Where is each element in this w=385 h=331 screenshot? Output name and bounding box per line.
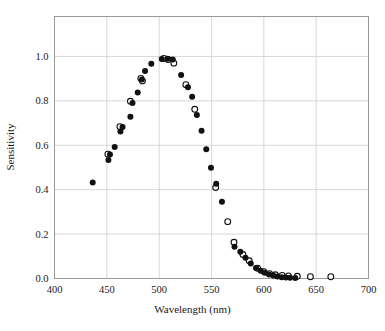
data-point-filled bbox=[178, 72, 184, 78]
data-point-filled bbox=[203, 146, 209, 152]
x-tick-label: 650 bbox=[308, 284, 324, 295]
x-tick-label: 550 bbox=[204, 284, 220, 295]
y-tick-label: 1.0 bbox=[35, 51, 48, 62]
x-tick-label: 600 bbox=[256, 284, 272, 295]
data-point-filled bbox=[287, 275, 293, 281]
y-tick-label: 0.8 bbox=[35, 95, 48, 106]
y-axis-title-wrapper: Sensitivity bbox=[0, 0, 20, 294]
data-point-filled bbox=[148, 61, 154, 67]
plot-canvas: 400450500550600650700 0.00.20.40.60.81.0 bbox=[0, 0, 385, 331]
x-axis-title: Wavelength (nm) bbox=[0, 303, 385, 315]
y-tick-label: 0.6 bbox=[35, 140, 48, 151]
data-point-open bbox=[192, 106, 198, 112]
data-point-filled bbox=[213, 181, 219, 187]
data-point-filled bbox=[170, 57, 176, 63]
y-tick-label: 0.2 bbox=[35, 229, 48, 240]
data-point-filled bbox=[232, 244, 238, 250]
data-series-filled-circles bbox=[90, 56, 299, 281]
data-point-filled bbox=[219, 199, 225, 205]
data-point-open bbox=[328, 274, 334, 280]
data-point-filled bbox=[208, 165, 214, 171]
x-tick-label: 500 bbox=[151, 284, 167, 295]
x-tick-label: 450 bbox=[99, 284, 115, 295]
data-series-open-circles bbox=[105, 56, 334, 280]
data-point-filled bbox=[139, 77, 145, 83]
y-axis-tick-labels: 0.00.20.40.60.81.0 bbox=[35, 51, 49, 284]
data-point-filled bbox=[243, 255, 249, 261]
data-point-filled bbox=[194, 112, 200, 118]
data-point-open bbox=[225, 219, 231, 225]
data-point-filled bbox=[112, 144, 118, 150]
data-point-filled bbox=[189, 94, 195, 100]
y-tick-label: 0.4 bbox=[35, 184, 49, 195]
data-point-filled bbox=[199, 128, 205, 134]
data-point-open bbox=[308, 274, 314, 280]
gridlines bbox=[55, 17, 369, 279]
y-tick-label: 0.0 bbox=[35, 273, 48, 284]
y-axis-title: Sensitivity bbox=[4, 123, 16, 170]
data-point-filled bbox=[248, 260, 254, 266]
data-point-filled bbox=[159, 56, 165, 62]
x-tick-label: 400 bbox=[47, 284, 63, 295]
data-point-filled bbox=[185, 84, 191, 90]
data-point-filled bbox=[165, 56, 171, 62]
x-tick-label: 700 bbox=[361, 284, 377, 295]
data-point-filled bbox=[142, 68, 148, 74]
data-point-filled bbox=[107, 152, 113, 158]
data-point-filled bbox=[292, 275, 298, 281]
data-point-filled bbox=[105, 157, 111, 163]
data-point-filled bbox=[120, 124, 126, 130]
x-axis-tick-labels: 400450500550600650700 bbox=[47, 284, 377, 295]
data-point-filled bbox=[129, 100, 135, 106]
data-point-filled bbox=[237, 249, 243, 255]
scatter-chart-figure: 400450500550600650700 0.00.20.40.60.81.0… bbox=[0, 0, 385, 331]
data-point-filled bbox=[135, 89, 141, 95]
data-point-filled bbox=[90, 180, 96, 186]
data-point-filled bbox=[127, 114, 133, 120]
